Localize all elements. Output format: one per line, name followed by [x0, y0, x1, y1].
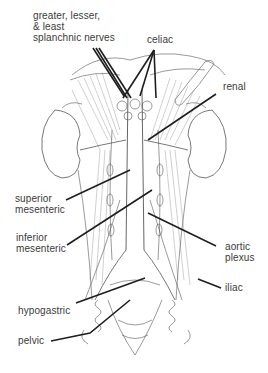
label-celiac: celiac: [147, 34, 173, 45]
leader-renal: [148, 94, 216, 140]
label-iliac: iliac: [225, 282, 243, 293]
label-splanchnic-nerves: greater, lesser, & least splanchnic nerv…: [33, 10, 115, 43]
label-aortic-plexus: aortic plexus: [225, 241, 255, 263]
leader-aortic-plexus: [148, 213, 216, 246]
leader-splanchnic-1: [93, 48, 124, 96]
anatomy-illustration: [0, 0, 268, 373]
leader-splanchnic-3: [99, 48, 131, 98]
label-inferior-mesenteric: inferior mesenteric: [16, 232, 66, 254]
leader-splanchnic-2: [96, 48, 127, 98]
leader-iliac: [198, 279, 221, 288]
label-hypogastric: hypogastric: [18, 305, 70, 316]
leader-inferior-mesenteric: [67, 190, 152, 245]
leader-celiac-2: [154, 50, 156, 98]
leader-hypogastric: [76, 278, 145, 303]
label-renal: renal: [223, 81, 246, 92]
label-superior-mesenteric: superior mesenteric: [15, 193, 65, 215]
leader-lines: [51, 48, 221, 341]
label-pelvic: pelvic: [18, 335, 44, 346]
